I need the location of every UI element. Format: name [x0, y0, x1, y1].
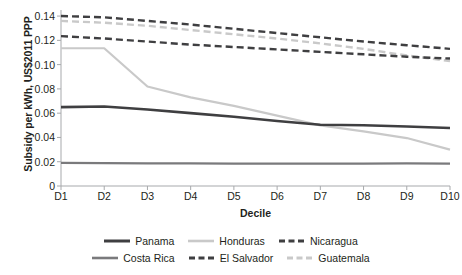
y-tick-label: 0.10	[0, 60, 55, 71]
y-tick-label: 0.14	[0, 11, 55, 22]
x-tick-label: D3	[141, 190, 154, 202]
legend-label: Panama	[135, 235, 174, 247]
x-tick-label: D4	[184, 190, 197, 202]
x-axis-tick-labels: D1D2D3D4D5D6D7D8D9D10	[61, 190, 450, 206]
legend-item-guatemala[interactable]: Guatemala	[287, 252, 369, 264]
series-line-honduras	[61, 48, 450, 149]
x-tick-label: D9	[400, 190, 413, 202]
legend-item-costa-rica[interactable]: Costa Rica	[92, 252, 174, 264]
chart-figure: Subsidy per kWh, US$2011 PPP 00.020.040.…	[0, 0, 462, 275]
series-line-el-salvador	[61, 36, 450, 58]
legend-item-el-salvador[interactable]: El Salvador	[189, 252, 274, 264]
legend-label: Nicaragua	[310, 235, 358, 247]
legend-label: El Salvador	[220, 252, 274, 264]
legend-swatch-icon	[92, 253, 118, 263]
legend-item-honduras[interactable]: Honduras	[188, 235, 265, 247]
legend-row-1: PanamaHondurasNicaragua	[0, 232, 462, 249]
chart-legend: PanamaHondurasNicaragua Costa RicaEl Sal…	[0, 232, 462, 266]
legend-swatch-icon	[104, 236, 130, 246]
legend-row-2: Costa RicaEl SalvadorGuatemala	[0, 249, 462, 266]
legend-swatch-icon	[279, 236, 305, 246]
y-tick-label: 0.08	[0, 84, 55, 95]
x-axis-title: Decile	[61, 207, 450, 219]
x-tick-label: D5	[227, 190, 240, 202]
legend-swatch-icon	[188, 236, 214, 246]
y-tick-label: 0.06	[0, 108, 55, 119]
series-line-costa-rica	[61, 163, 450, 164]
x-tick-label: D1	[54, 190, 67, 202]
legend-item-panama[interactable]: Panama	[104, 235, 174, 247]
x-tick-label: D6	[270, 190, 283, 202]
legend-label: Costa Rica	[123, 252, 174, 264]
x-tick-label: D8	[357, 190, 370, 202]
legend-swatch-icon	[287, 253, 313, 263]
legend-label: Honduras	[219, 235, 265, 247]
y-tick-label: 0.12	[0, 35, 55, 46]
axis-spines	[61, 10, 450, 186]
y-tick-label: 0.02	[0, 157, 55, 168]
plot-area	[61, 10, 450, 186]
y-tick-label: 0	[0, 181, 55, 192]
chart-canvas	[61, 10, 450, 186]
legend-label: Guatemala	[318, 252, 369, 264]
legend-item-nicaragua[interactable]: Nicaragua	[279, 235, 358, 247]
x-tick-label: D7	[314, 190, 327, 202]
x-tick-label: D2	[98, 190, 111, 202]
y-tick-label: 0.04	[0, 132, 55, 143]
series-line-nicaragua	[61, 16, 450, 49]
legend-swatch-icon	[189, 253, 215, 263]
x-tick-label: D10	[440, 190, 459, 202]
